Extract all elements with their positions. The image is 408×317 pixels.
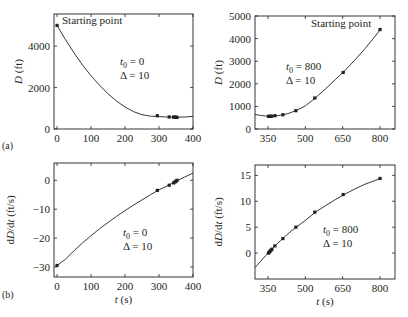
y-tick-label: 15 [240,169,252,181]
x-tick-label: 100 [83,132,100,144]
y-tick-label: −30 [33,261,51,273]
plot-frame [54,163,193,277]
data-point [273,244,276,247]
data-point [270,115,273,118]
x-tick-label: 400 [185,280,202,292]
data-point [168,115,171,118]
y-tick-label: 4000 [28,40,51,52]
data-point [342,71,345,74]
data-point [175,179,178,182]
data-point [156,189,159,192]
panel-label-a: (a) [2,140,13,152]
starting-point-label: Starting point [62,14,122,26]
t0-annotation: t0 = 800 [323,223,359,238]
chart-a-left: 0100200300400020004000t0 = 0Δ = 10Starti… [12,14,202,144]
x-tick-label: 800 [372,132,389,144]
x-tick-label: 500 [297,132,314,144]
plot-frame [255,16,395,129]
delta-annotation: Δ = 10 [123,240,153,252]
x-tick-label: 400 [185,132,202,144]
x-tick-label: 200 [117,132,134,144]
x-tick-label: 500 [297,282,314,294]
data-point [313,96,316,99]
y-tick-label: 5 [246,221,252,233]
y-tick-label: −10 [33,203,51,215]
data-point [294,109,297,112]
data-point [281,113,284,116]
data-point [156,114,159,117]
x-tick-label: 350 [260,132,277,144]
data-point [378,177,381,180]
y-tick-label: 2000 [28,82,51,94]
x-tick-label: 100 [83,280,100,292]
y-tick-label: 1000 [229,100,252,112]
y-tick-label: 0 [45,174,51,186]
x-tick-label: 800 [372,282,389,294]
delta-annotation: Δ = 10 [286,74,316,86]
data-point [55,24,58,27]
chart-b-left: 0100200300400−30−20−100t0 = 0Δ = 10dD/dt… [4,163,202,306]
x-axis-label: t (s) [316,295,334,308]
x-tick-label: 200 [117,280,134,292]
t0-annotation: t0 = 800 [286,60,322,75]
y-tick-label: 2000 [229,78,252,90]
y-axis-label: dD/dt (ft/s) [4,195,17,245]
t0-annotation: t0 = 0 [120,55,145,70]
delta-annotation: Δ = 10 [120,69,150,81]
data-point [378,28,381,31]
y-tick-label: 3000 [229,55,252,67]
data-point [273,114,276,117]
x-tick-label: 350 [260,282,277,294]
data-point [342,193,345,196]
y-tick-label: 0 [246,247,252,259]
x-tick-label: 650 [334,282,351,294]
fitted-curve [255,30,380,117]
fitted-curve [255,179,380,268]
data-point [294,226,297,229]
y-tick-label: −20 [33,232,51,244]
data-point [281,237,284,240]
x-tick-label: 300 [151,280,168,292]
t0-annotation: t0 = 0 [123,226,148,241]
plot-frame [255,165,395,279]
x-tick-label: 0 [54,132,60,144]
y-axis-label: D (ft) [12,59,25,85]
y-tick-label: 10 [240,195,252,207]
data-point [168,184,171,187]
x-axis-label: t (s) [115,293,133,306]
data-point [313,211,316,214]
panel-label-b: (b) [2,289,14,301]
x-tick-label: 650 [334,132,351,144]
y-axis-label: dD/dt (ft/s) [212,197,225,247]
y-axis-label: D (ft) [212,60,225,86]
data-point [55,264,58,267]
data-point [270,248,273,251]
chart-b-right: 350500650800051015t0 = 800Δ = 10dD/dt (f… [212,165,395,308]
x-tick-label: 300 [151,132,168,144]
data-point [175,116,178,119]
delta-annotation: Δ = 10 [323,237,353,249]
chart-a-right: 350500650800010002000300040005000t0 = 80… [212,10,395,144]
y-tick-label: 0 [45,123,51,135]
starting-point-label: Starting point [311,17,371,29]
y-tick-label: 0 [246,123,252,135]
figure: 0100200300400020004000t0 = 0Δ = 10Starti… [0,0,408,317]
y-tick-label: 4000 [229,33,252,45]
x-tick-label: 0 [54,280,60,292]
y-tick-label: 5000 [229,10,252,22]
